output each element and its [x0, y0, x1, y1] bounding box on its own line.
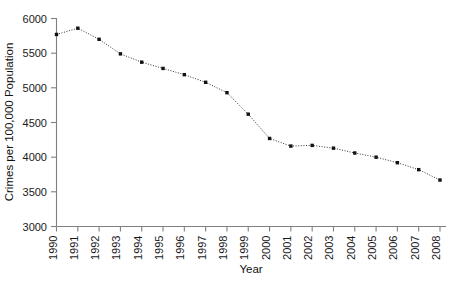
x-tick-label: 1993 [110, 236, 122, 260]
x-tick-label: 1999 [238, 236, 250, 260]
crime-rate-series [55, 27, 442, 182]
x-tick-label: 1997 [196, 236, 208, 260]
x-tick-label: 2000 [260, 236, 272, 260]
chart-canvas: 3000 3500 4000 4500 5000 5500 6000 19901… [0, 0, 450, 286]
x-tick-label: 1991 [68, 236, 80, 260]
data-point-marker [268, 137, 271, 140]
x-tick-label: 2003 [323, 236, 335, 260]
data-point-marker [76, 27, 79, 30]
data-point-marker [332, 146, 335, 149]
y-tick-label: 5000 [23, 82, 47, 94]
y-axis-ticks: 3000 3500 4000 4500 5000 5500 6000 [23, 13, 57, 233]
x-tick-label: 1990 [47, 236, 59, 260]
x-tick-label: 2008 [430, 236, 442, 260]
data-point-marker [225, 91, 228, 94]
x-tick-label: 1992 [89, 236, 101, 260]
crime-rate-line-chart: 3000 3500 4000 4500 5000 5500 6000 19901… [0, 0, 450, 286]
data-point-marker [204, 81, 207, 84]
data-point-marker [310, 144, 313, 147]
data-point-marker [353, 151, 356, 154]
x-tick-label: 2001 [281, 236, 293, 260]
x-axis-ticks: 1990199119921993199419951996199719981999… [47, 227, 443, 260]
x-tick-label: 2004 [345, 236, 357, 260]
series-line [57, 28, 441, 180]
y-tick-label: 3500 [23, 186, 47, 198]
data-point-marker [417, 168, 420, 171]
y-tick-label: 3000 [23, 221, 47, 233]
y-tick-label: 5500 [23, 47, 47, 59]
y-tick-label: 4500 [23, 117, 47, 129]
data-point-marker [396, 161, 399, 164]
data-point-marker [161, 67, 164, 70]
data-point-marker [183, 73, 186, 76]
data-point-marker [119, 52, 122, 55]
x-tick-label: 1995 [153, 236, 165, 260]
data-point-marker [438, 178, 441, 181]
y-tick-label: 6000 [23, 13, 47, 25]
x-tick-label: 2005 [366, 236, 378, 260]
x-tick-label: 1996 [174, 236, 186, 260]
x-tick-label: 1994 [132, 236, 144, 260]
x-axis-title: Year [239, 263, 262, 275]
data-point-marker [247, 112, 250, 115]
x-tick-label: 2002 [302, 236, 314, 260]
data-point-marker [55, 33, 58, 36]
data-point-marker [140, 60, 143, 63]
x-tick-label: 2006 [387, 236, 399, 260]
y-tick-label: 4000 [23, 151, 47, 163]
data-point-marker [374, 155, 377, 158]
data-point-marker [289, 144, 292, 147]
data-point-marker [97, 38, 100, 41]
x-tick-label: 1998 [217, 236, 229, 260]
y-axis-title: Crimes per 100,000 Population [3, 43, 15, 202]
x-tick-label: 2007 [409, 236, 421, 260]
